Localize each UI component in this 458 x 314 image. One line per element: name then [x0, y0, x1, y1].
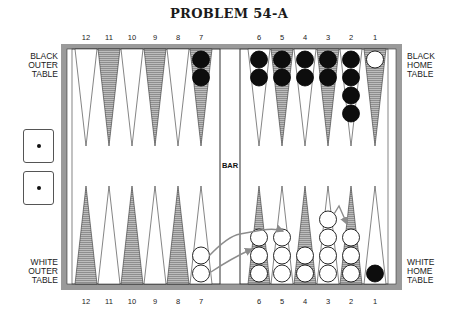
point-number: 5 — [280, 297, 284, 306]
black-checker[interactable] — [251, 51, 268, 68]
point-number: 2 — [349, 297, 353, 306]
white-checker[interactable] — [343, 265, 360, 282]
point-number: 11 — [105, 33, 113, 42]
white-checker[interactable] — [274, 229, 291, 246]
black-checker[interactable] — [320, 51, 337, 68]
white-checker[interactable] — [367, 51, 384, 68]
point-number: 4 — [303, 297, 307, 306]
point-number: 8 — [176, 297, 180, 306]
black-checker[interactable] — [251, 69, 268, 86]
white-checker[interactable] — [193, 265, 210, 282]
point-number: 4 — [303, 33, 307, 42]
point-number: 2 — [349, 33, 353, 42]
black-checker[interactable] — [274, 69, 291, 86]
black-checker[interactable] — [320, 69, 337, 86]
black-checker[interactable] — [297, 51, 314, 68]
point-number: 12 — [82, 33, 90, 42]
white-checker[interactable] — [343, 229, 360, 246]
point-number: 5 — [280, 33, 284, 42]
black-checker[interactable] — [343, 87, 360, 104]
point-number: 6 — [257, 297, 261, 306]
point-number: 3 — [326, 297, 330, 306]
black-checker[interactable] — [343, 51, 360, 68]
bar-label: BAR — [222, 161, 239, 170]
point-number: 3 — [326, 33, 330, 42]
point-number: 7 — [199, 33, 203, 42]
white-checker[interactable] — [320, 247, 337, 264]
point-number: 10 — [128, 33, 136, 42]
point-number: 12 — [82, 297, 90, 306]
black-checker[interactable] — [274, 51, 291, 68]
white-checker[interactable] — [343, 247, 360, 264]
white-checker[interactable] — [297, 247, 314, 264]
white-checker[interactable] — [274, 265, 291, 282]
black-checker[interactable] — [367, 265, 384, 282]
white-checker[interactable] — [274, 247, 291, 264]
point-number: 9 — [153, 33, 157, 42]
point-number: 7 — [199, 297, 203, 306]
backgammon-board: BAR 121110987654321121110987654321 — [0, 0, 458, 314]
white-checker[interactable] — [193, 247, 210, 264]
point-number: 1 — [373, 33, 377, 42]
point-number: 8 — [176, 33, 180, 42]
point-number: 1 — [373, 297, 377, 306]
point-number: 6 — [257, 33, 261, 42]
black-checker[interactable] — [297, 69, 314, 86]
black-checker[interactable] — [193, 51, 210, 68]
point-number: 10 — [128, 297, 136, 306]
white-checker[interactable] — [320, 229, 337, 246]
white-checker[interactable] — [320, 265, 337, 282]
black-checker[interactable] — [343, 69, 360, 86]
point-number: 11 — [105, 297, 113, 306]
black-checker[interactable] — [343, 105, 360, 122]
white-checker[interactable] — [297, 265, 314, 282]
point-number: 9 — [153, 297, 157, 306]
black-checker[interactable] — [193, 69, 210, 86]
white-checker[interactable] — [251, 265, 268, 282]
white-checker[interactable] — [251, 247, 268, 264]
